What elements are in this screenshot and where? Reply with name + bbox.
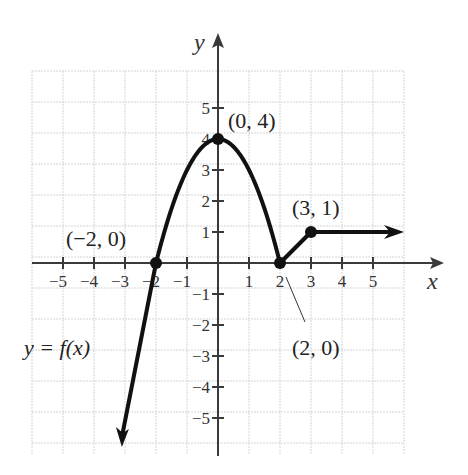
- y-tick-label: 5: [202, 99, 211, 118]
- y-tick-label: −2: [192, 316, 210, 335]
- x-tick-label: −1: [173, 272, 191, 291]
- annotation-3-1: (3, 1): [292, 195, 340, 220]
- x-tick-label: 1: [245, 272, 254, 291]
- annotation-neg2-0: (−2, 0): [66, 226, 126, 251]
- y-tick-label: −5: [192, 409, 210, 428]
- y-axis-label: y: [192, 29, 205, 55]
- leader-line-2-0: [286, 277, 305, 322]
- marked-point: [150, 257, 162, 269]
- y-tick-label: 3: [202, 161, 211, 180]
- y-tick-label: 2: [202, 192, 211, 211]
- x-tick-label: −3: [111, 272, 129, 291]
- marked-point: [212, 133, 224, 145]
- annotation-0-4: (0, 4): [228, 108, 276, 133]
- y-tick-label: −3: [192, 347, 210, 366]
- y-tick-label: 1: [202, 223, 211, 242]
- x-tick-label: 3: [307, 272, 316, 291]
- x-axis-label: x: [426, 268, 438, 294]
- function-graph: −5−4−3−2−11234554321−1−2−3−4−5 y x (−2, …: [0, 0, 468, 475]
- marked-point: [305, 226, 317, 238]
- function-curve: [116, 139, 404, 447]
- y-tick-label: −1: [192, 285, 210, 304]
- x-tick-label: 4: [338, 272, 347, 291]
- x-tick-label: 5: [369, 272, 378, 291]
- x-tick-label: −4: [80, 272, 99, 291]
- marked-point: [274, 257, 286, 269]
- annotation-2-0: (2, 0): [292, 335, 340, 360]
- y-tick-label: −4: [192, 378, 211, 397]
- x-tick-label: −5: [49, 272, 67, 291]
- function-label: y = f(x): [22, 335, 90, 360]
- segment-piece: [280, 232, 311, 263]
- x-tick-label: 2: [276, 272, 285, 291]
